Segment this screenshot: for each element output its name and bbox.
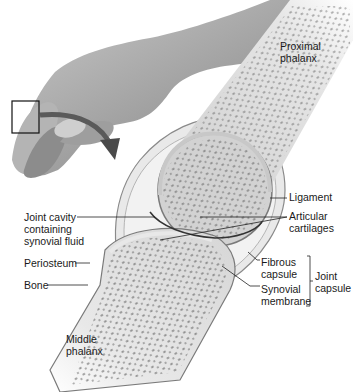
label-periosteum: Periosteum	[24, 257, 77, 269]
synovial-joint-diagram: Proximal phalanx Ligament Articular cart…	[0, 0, 353, 392]
label-joint-cavity: Joint cavity containing synovial fluid	[24, 211, 84, 247]
label-articular-cartilages: Articular cartilages	[289, 210, 334, 234]
label-fibrous-capsule: Fibrous capsule	[261, 256, 297, 280]
label-synovial-membrane: Synovial membrane	[261, 283, 311, 307]
label-joint-capsule: Joint capsule	[315, 270, 351, 294]
label-bone: Bone	[24, 279, 49, 291]
middle-phalanx-bone	[50, 228, 235, 392]
label-middle-phalanx: Middle phalanx	[66, 333, 103, 357]
label-proximal-phalanx: Proximal phalanx	[280, 40, 321, 64]
label-ligament: Ligament	[289, 191, 332, 203]
